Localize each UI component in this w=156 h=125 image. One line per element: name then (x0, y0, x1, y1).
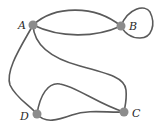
edge-a-b-upper (33, 10, 121, 26)
edge-a-c (33, 25, 126, 112)
edge-d-c-lower (37, 112, 124, 121)
node-b (117, 22, 126, 31)
edge-a-b-lower (33, 25, 121, 35)
node-d-label: D (19, 110, 29, 123)
graph-diagram: A B C D (0, 0, 156, 125)
node-b-label: B (128, 20, 137, 33)
edge-a-d (9, 25, 37, 114)
node-a-label: A (17, 19, 26, 32)
node-d (33, 110, 42, 119)
node-c (120, 108, 129, 117)
node-a (29, 21, 38, 30)
edge-d-c-upper (37, 84, 124, 114)
node-c-label: C (132, 107, 141, 120)
